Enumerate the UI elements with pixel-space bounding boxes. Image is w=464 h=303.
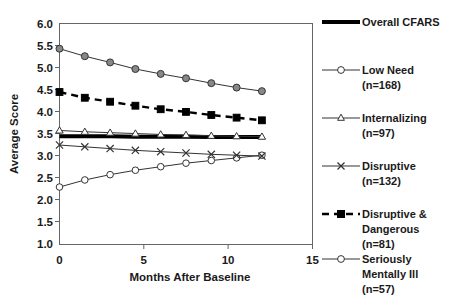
legend-label: Disruptive & [362, 208, 427, 220]
legend-marker-filled-square-icon [338, 211, 345, 218]
legend-label: Internalizing [362, 112, 427, 124]
legend-marker-gray-circle-icon [338, 256, 345, 263]
legend-label: Disruptive [362, 160, 416, 172]
y-axis-label: Average Score [8, 94, 20, 174]
legend-label: Overall CFARS [362, 16, 440, 28]
legend-label: Low Need [362, 64, 414, 76]
data-point-marker [208, 80, 215, 87]
data-point-marker [107, 171, 114, 178]
legend-marker-open-circle-icon [338, 67, 345, 74]
y-tick-label: 3.0 [37, 150, 53, 162]
data-point-marker [56, 45, 63, 52]
y-tick-label: 2.5 [37, 172, 54, 184]
y-tick-label: 1.5 [37, 216, 54, 228]
data-point-marker [183, 160, 190, 167]
chart-figure: 6.0 5.5 5.0 4.5 4.0 3.5 3.0 2.5 2.0 1.5 … [0, 0, 464, 303]
data-point-marker [208, 157, 215, 164]
legend-sample-size: (n=81) [362, 238, 395, 250]
y-tick-label: 5.0 [37, 62, 53, 74]
legend-label-line2: Mentally Ill [362, 268, 418, 280]
legend-label-line2: Dangerous [362, 223, 419, 235]
y-tick-label: 3.5 [37, 128, 54, 140]
y-tick-label: 1.0 [37, 238, 53, 250]
data-point-marker [183, 109, 190, 116]
data-point-marker [82, 177, 89, 184]
data-point-marker [259, 117, 266, 124]
data-point-marker [132, 102, 139, 109]
data-point-marker [208, 112, 215, 119]
y-tick-label: 6.0 [37, 18, 53, 30]
data-point-marker [233, 114, 240, 121]
legend-sample-size: (n=57) [362, 283, 395, 295]
y-tick-label: 4.0 [37, 106, 53, 118]
data-point-marker [258, 88, 265, 95]
legend-label: Seriously [362, 253, 412, 265]
data-point-marker [157, 163, 164, 170]
data-point-marker [259, 152, 266, 159]
x-tick-label: 5 [141, 254, 148, 266]
data-point-marker [81, 53, 88, 60]
y-tick-label: 4.5 [37, 84, 54, 96]
x-tick-label: 10 [222, 254, 235, 266]
x-tick-label: 15 [306, 254, 319, 266]
data-point-marker [157, 70, 164, 77]
data-point-marker [81, 94, 88, 101]
data-point-marker [107, 59, 114, 66]
data-point-marker [157, 106, 164, 113]
data-point-marker [183, 75, 190, 82]
data-point-marker [132, 167, 139, 174]
legend-sample-size: (n=132) [362, 175, 401, 187]
legend-sample-size: (n=168) [362, 79, 401, 91]
data-point-marker [233, 84, 240, 91]
data-point-marker [132, 66, 139, 73]
x-tick-label: 0 [56, 254, 62, 266]
y-tick-label: 5.5 [37, 40, 54, 52]
data-point-marker [56, 184, 63, 191]
x-axis-label: Months After Baseline [130, 271, 251, 283]
legend-sample-size: (n=97) [362, 127, 395, 139]
y-tick-label: 2.0 [37, 194, 53, 206]
data-point-marker [107, 98, 114, 105]
data-point-marker [56, 89, 63, 96]
